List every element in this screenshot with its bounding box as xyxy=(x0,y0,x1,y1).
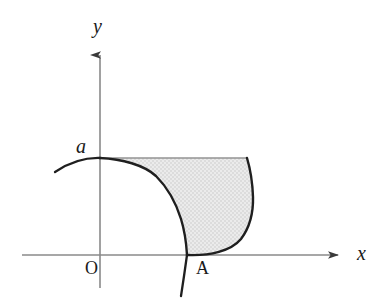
astroid-region-diagram xyxy=(0,0,384,308)
origin-label: O xyxy=(85,259,98,277)
x-axis-label: x xyxy=(357,243,366,263)
figure-canvas: y x a O A xyxy=(0,0,384,308)
y-axis-label: y xyxy=(93,16,102,36)
lower-tail-curve xyxy=(181,255,187,296)
y-intercept-label-a: a xyxy=(76,136,86,156)
point-a-label: A xyxy=(196,259,209,277)
left-tail-curve xyxy=(55,158,100,172)
